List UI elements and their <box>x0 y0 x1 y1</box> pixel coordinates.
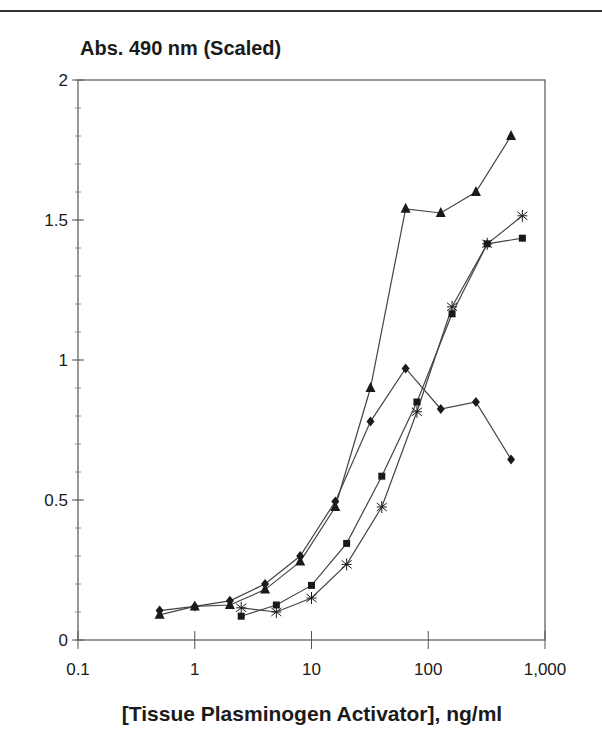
series-line-square <box>241 238 522 616</box>
plot-frame <box>78 80 545 640</box>
square-marker <box>308 582 315 589</box>
square-marker <box>343 540 350 547</box>
series-line-triangle <box>160 136 511 615</box>
y-tick-label: 0 <box>59 631 68 650</box>
y-tick-label: 1 <box>59 351 68 370</box>
triangle-marker <box>401 203 411 213</box>
x-tick-label: 1,000 <box>524 660 567 679</box>
series-line-diamond <box>160 368 511 610</box>
x-axis-title: [Tissue Plasminogen Activator], ng/ml <box>0 702 602 726</box>
x-tick-label: 10 <box>302 660 321 679</box>
triangle-marker <box>365 382 375 392</box>
x-tick-label: 100 <box>414 660 442 679</box>
triangle-marker <box>506 130 516 140</box>
series-line-star <box>241 216 522 612</box>
y-tick-label: 1.5 <box>44 211 68 230</box>
y-tick-label: 0.5 <box>44 491 68 510</box>
y-tick-label: 2 <box>59 71 68 90</box>
square-marker <box>413 399 420 406</box>
x-tick-label: 0.1 <box>66 660 90 679</box>
chart-plot-area: 00.511.520.11101001,000 <box>0 0 602 743</box>
square-marker <box>519 235 526 242</box>
x-tick-label: 1 <box>190 660 199 679</box>
square-marker <box>378 473 385 480</box>
